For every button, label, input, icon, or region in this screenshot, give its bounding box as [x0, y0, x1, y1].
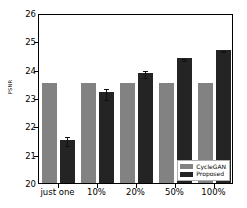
x-tick-label: 20% [126, 187, 145, 197]
x-tick-mark [175, 184, 176, 188]
legend: CycleGAN Proposed [177, 160, 230, 182]
legend-label-proposed: Proposed [196, 171, 224, 177]
y-tick-label: 21 [0, 151, 36, 160]
error-bar-cap [182, 61, 188, 62]
error-bar-cap [65, 137, 71, 138]
legend-item-cyclegan: CycleGAN [180, 163, 226, 170]
x-tick-mark [214, 184, 215, 188]
error-bar [106, 89, 107, 100]
x-tick-label: 100% [201, 187, 225, 197]
x-tick-label: just one [40, 187, 74, 197]
x-tick-label: 10% [87, 187, 106, 197]
error-bar-cap [143, 78, 149, 79]
error-bar-cap [182, 59, 188, 60]
bar-cyclegan [81, 83, 97, 183]
y-tick-label: 23 [0, 95, 36, 104]
plot-area: CycleGAN Proposed [38, 14, 233, 184]
y-tick-label: 26 [0, 10, 36, 19]
error-bar-cap [221, 52, 227, 53]
y-tick-label: 22 [0, 123, 36, 132]
error-bar [67, 137, 68, 146]
x-tick-mark [97, 184, 98, 188]
bar-proposed [99, 92, 115, 183]
bar-chart-figure: PSNR 20212223242526 just one10%20%50%100… [0, 0, 247, 208]
legend-item-proposed: Proposed [180, 171, 226, 178]
error-bar-cap [104, 100, 110, 101]
bar-cyclegan [42, 83, 58, 183]
y-tick-label: 20 [0, 180, 36, 189]
legend-swatch-cyclegan [180, 164, 193, 169]
x-tick-mark [58, 184, 59, 188]
bar-cyclegan [120, 83, 136, 183]
error-bar-cap [104, 89, 110, 90]
legend-label-cyclegan: CycleGAN [196, 164, 226, 170]
x-tick-mark [136, 184, 137, 188]
error-bar-cap [65, 146, 71, 147]
bar-cyclegan [159, 83, 175, 183]
bar-proposed [138, 73, 154, 184]
x-tick-label: 50% [165, 187, 184, 197]
error-bar-cap [143, 71, 149, 72]
y-tick-label: 24 [0, 66, 36, 75]
y-tick-label: 25 [0, 38, 36, 47]
legend-swatch-proposed [180, 172, 193, 177]
